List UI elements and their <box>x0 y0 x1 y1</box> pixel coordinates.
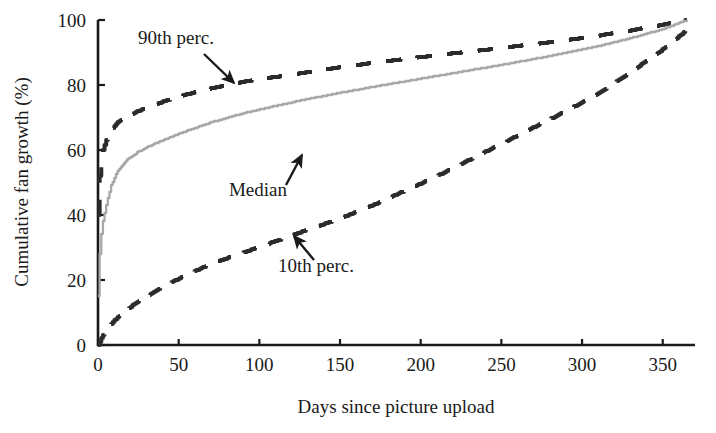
x-tick-label: 350 <box>648 354 677 375</box>
x-tick-label: 250 <box>487 354 516 375</box>
y-tick-label: 40 <box>67 205 86 226</box>
x-tick-label: 0 <box>93 354 103 375</box>
annotation-label: 90th perc. <box>138 27 214 48</box>
cumulative-fan-growth-chart: 050100150200250300350 020406080100 90th … <box>0 0 716 433</box>
y-tick-label: 100 <box>58 10 87 31</box>
y-tick-label: 20 <box>67 270 86 291</box>
y-tick-label: 0 <box>77 335 87 356</box>
x-tick-label: 200 <box>406 354 435 375</box>
x-tick-label: 300 <box>568 354 597 375</box>
y-tick-label: 60 <box>67 140 86 161</box>
x-tick-label: 50 <box>169 354 188 375</box>
y-axis-title: Cumulative fan growth (%) <box>11 77 33 286</box>
y-tick-label: 80 <box>67 75 86 96</box>
x-tick-label: 100 <box>245 354 274 375</box>
x-tick-label: 150 <box>326 354 355 375</box>
annotation-label: Median <box>229 179 288 200</box>
annotation-label: 10th perc. <box>278 255 354 276</box>
x-axis-title: Days since picture upload <box>298 396 495 417</box>
chart-figure: 050100150200250300350 020406080100 90th … <box>0 0 716 433</box>
